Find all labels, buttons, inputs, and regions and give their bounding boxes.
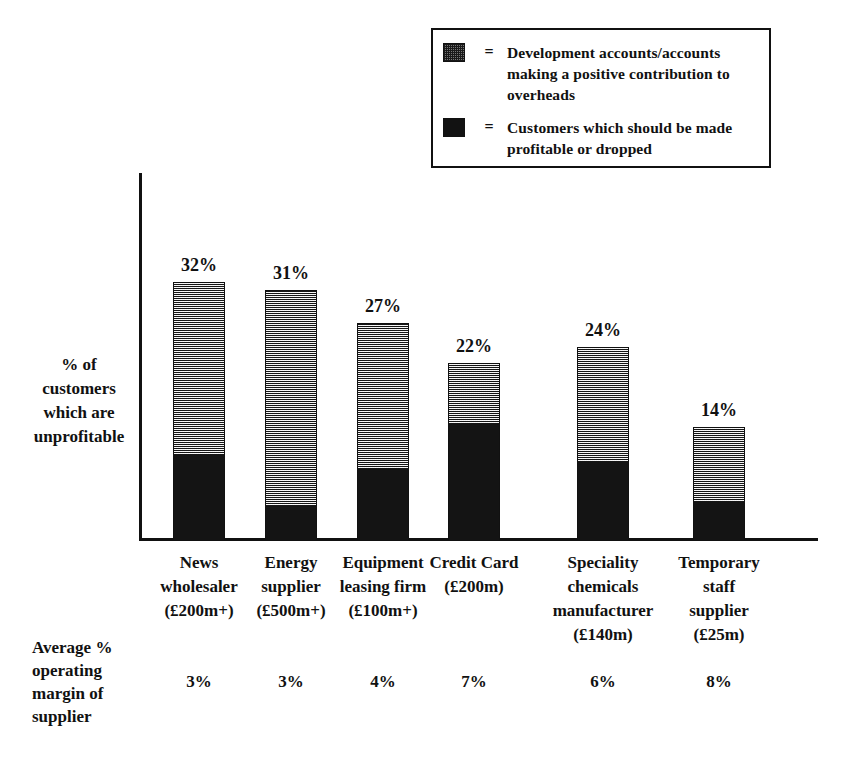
bar-6 (693, 427, 745, 540)
category-label-6: Temporarystaffsupplier(£25m) (660, 551, 778, 647)
bar-segment-development-accounts (694, 428, 744, 501)
bar-value-label-6: 14% (674, 400, 764, 421)
margin-value-6: 8% (674, 672, 764, 692)
margin-row-title-line: margin of (32, 682, 152, 705)
margin-value-2: 3% (246, 672, 336, 692)
bar-2 (265, 290, 317, 540)
bar-4 (448, 363, 500, 540)
bar-segment-development-accounts (174, 283, 224, 455)
margin-value-5: 6% (558, 672, 648, 692)
bar-value-label-4: 22% (429, 336, 519, 357)
bar-value-label-1: 32% (154, 255, 244, 276)
margin-row-title-line: operating (32, 659, 152, 682)
bar-1 (173, 282, 225, 540)
bar-segment-unprofitable-customers (358, 469, 408, 540)
category-label-line: Credit Card (415, 551, 533, 575)
bar-3 (357, 323, 409, 540)
bar-segment-unprofitable-customers (266, 506, 316, 540)
category-label-line: staff (660, 575, 778, 599)
bar-value-label-2: 31% (246, 263, 336, 284)
category-label-line: (£25m) (660, 623, 778, 647)
category-label-line: (£100m+) (324, 599, 442, 623)
category-label-line: (£140m) (544, 623, 662, 647)
y-axis-title-line: customers (20, 377, 138, 401)
bar-segment-development-accounts (358, 324, 408, 469)
bar-value-label-3: 27% (338, 296, 428, 317)
y-axis-title-line: unprofitable (20, 425, 138, 449)
y-axis-line (139, 173, 142, 540)
category-label-5: Specialitychemicalsmanufacturer(£140m) (544, 551, 662, 647)
category-label-line: Speciality (544, 551, 662, 575)
y-axis-title-line: which are (20, 401, 138, 425)
y-axis-title: % ofcustomerswhich areunprofitable (20, 353, 138, 449)
margin-value-3: 4% (338, 672, 428, 692)
y-axis-title-line: % of (20, 353, 138, 377)
bar-segment-unprofitable-customers (449, 424, 499, 540)
bar-segment-development-accounts (266, 291, 316, 505)
bar-segment-unprofitable-customers (694, 502, 744, 540)
bar-segment-unprofitable-customers (578, 462, 628, 540)
category-label-line: supplier (660, 599, 778, 623)
category-label-line: manufacturer (544, 599, 662, 623)
margin-row-title: Average %operatingmargin ofsupplier (32, 636, 152, 728)
margin-value-1: 3% (154, 672, 244, 692)
chart-page: = Development accounts/accounts making a… (0, 0, 845, 758)
bar-segment-development-accounts (449, 364, 499, 424)
category-label-line: Temporary (660, 551, 778, 575)
bar-value-label-5: 24% (558, 320, 648, 341)
margin-row-title-line: Average % (32, 636, 152, 659)
bar-segment-development-accounts (578, 348, 628, 462)
bar-5 (577, 347, 629, 540)
category-label-line: chemicals (544, 575, 662, 599)
margin-row-title-line: supplier (32, 705, 152, 728)
bar-segment-unprofitable-customers (174, 455, 224, 540)
category-label-line: (£200m) (415, 575, 533, 599)
category-label-4: Credit Card(£200m) (415, 551, 533, 599)
plot-area: % ofcustomerswhich areunprofitable 32%Ne… (0, 0, 845, 758)
margin-value-4: 7% (429, 672, 519, 692)
